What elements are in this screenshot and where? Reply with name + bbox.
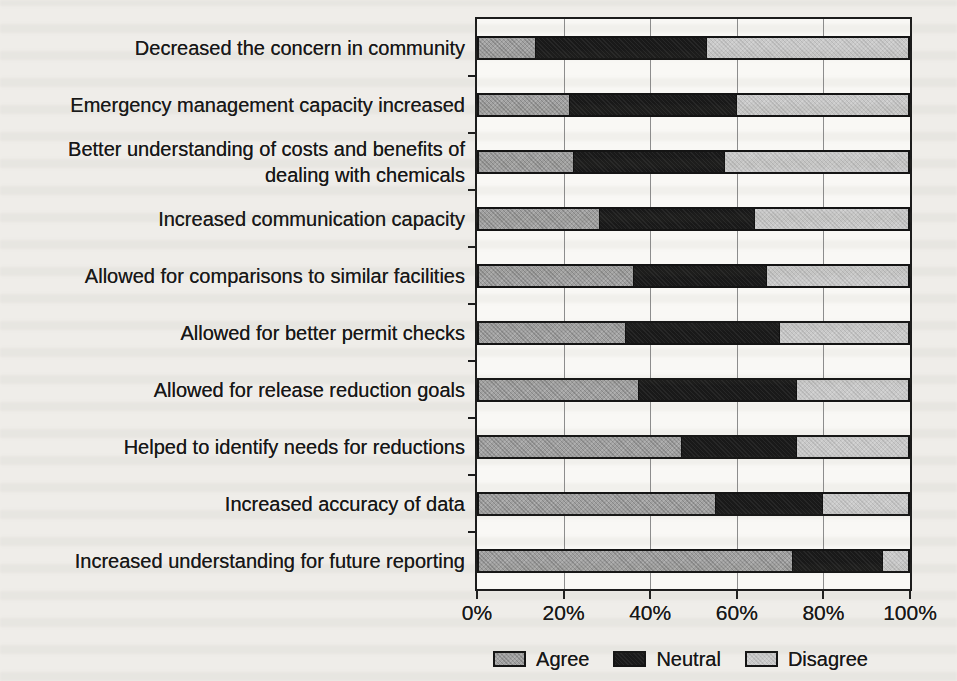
bar-segment-disagree bbox=[796, 380, 908, 400]
agree-swatch bbox=[493, 651, 526, 667]
category-label: Emergency management capacity increased bbox=[0, 92, 465, 118]
legend-label: Neutral bbox=[656, 648, 720, 671]
plot-area bbox=[475, 17, 912, 591]
bar-row bbox=[477, 435, 910, 459]
bar-row bbox=[477, 549, 910, 573]
bar-segment-neutral bbox=[792, 551, 882, 571]
x-axis-label: 40% bbox=[629, 601, 671, 625]
x-axis-tick bbox=[909, 591, 911, 599]
bar-segment-agree bbox=[479, 551, 792, 571]
bar-row bbox=[477, 492, 910, 516]
y-axis-tick bbox=[468, 132, 475, 134]
neutral-swatch bbox=[613, 651, 646, 667]
bar-segment-neutral bbox=[535, 38, 707, 58]
bar-segment-agree bbox=[479, 323, 625, 343]
bar-segment-neutral bbox=[715, 494, 822, 514]
category-label: Allowed for better permit checks bbox=[0, 320, 465, 346]
bar-segment-neutral bbox=[638, 380, 797, 400]
category-label: Allowed for comparisons to similar facil… bbox=[0, 263, 465, 289]
y-axis-tick bbox=[468, 531, 475, 533]
bar-row bbox=[477, 264, 910, 288]
x-axis-tick bbox=[822, 591, 824, 599]
bar-segment-neutral bbox=[625, 323, 779, 343]
stacked-bar-chart: Decreased the concern in communityEmerge… bbox=[0, 0, 957, 681]
y-axis-tick bbox=[468, 417, 475, 419]
bar-segment-disagree bbox=[706, 38, 908, 58]
legend-item-agree: Agree bbox=[493, 648, 589, 671]
x-axis-tick bbox=[736, 591, 738, 599]
bar-segment-disagree bbox=[754, 209, 908, 229]
bar-segment-disagree bbox=[796, 437, 908, 457]
y-axis-tick bbox=[468, 189, 475, 191]
y-axis-tick bbox=[468, 246, 475, 248]
bar-segment-agree bbox=[479, 152, 573, 172]
y-axis-tick bbox=[468, 303, 475, 305]
bar-row bbox=[477, 93, 910, 117]
category-label: Allowed for release reduction goals bbox=[0, 377, 465, 403]
x-axis-tick bbox=[476, 591, 478, 599]
category-label: Helped to identify needs for reductions bbox=[0, 434, 465, 460]
x-axis-tick bbox=[563, 591, 565, 599]
x-axis-label: 100% bbox=[883, 601, 937, 625]
bar-segment-disagree bbox=[724, 152, 908, 172]
legend-label: Disagree bbox=[788, 648, 868, 671]
bar-segment-disagree bbox=[822, 494, 908, 514]
bar-segment-agree bbox=[479, 380, 638, 400]
bar-segment-agree bbox=[479, 209, 599, 229]
y-axis-tick bbox=[468, 75, 475, 77]
bar-segment-disagree bbox=[766, 266, 908, 286]
bar-segment-agree bbox=[479, 494, 715, 514]
bar-segment-neutral bbox=[569, 95, 736, 115]
bar-segment-neutral bbox=[573, 152, 723, 172]
bar-row bbox=[477, 207, 910, 231]
x-axis-ticks bbox=[477, 591, 910, 600]
legend-item-disagree: Disagree bbox=[745, 648, 868, 671]
category-label: Increased understanding for future repor… bbox=[0, 548, 465, 574]
bar-segment-disagree bbox=[882, 551, 908, 571]
category-label: Increased accuracy of data bbox=[0, 491, 465, 517]
bar-segment-agree bbox=[479, 38, 535, 58]
category-label: Increased communication capacity bbox=[0, 206, 465, 232]
x-axis-labels: 0%20%40%60%80%100% bbox=[477, 601, 910, 627]
bar-segment-neutral bbox=[633, 266, 766, 286]
legend-label: Agree bbox=[536, 648, 589, 671]
x-axis-label: 20% bbox=[543, 601, 585, 625]
bar-segment-agree bbox=[479, 95, 569, 115]
bar-segment-agree bbox=[479, 437, 681, 457]
bar-segment-agree bbox=[479, 266, 633, 286]
y-axis-tick bbox=[468, 474, 475, 476]
disagree-swatch bbox=[745, 651, 778, 667]
bar-row bbox=[477, 150, 910, 174]
legend-item-neutral: Neutral bbox=[613, 648, 720, 671]
bar-segment-disagree bbox=[779, 323, 908, 343]
x-axis-tick bbox=[649, 591, 651, 599]
bar-row bbox=[477, 321, 910, 345]
scanned-page: Decreased the concern in communityEmerge… bbox=[0, 0, 957, 681]
category-label: Better understanding of costs and benefi… bbox=[0, 136, 465, 188]
x-axis-label: 80% bbox=[802, 601, 844, 625]
bar-segment-neutral bbox=[681, 437, 797, 457]
category-label: Decreased the concern in community bbox=[0, 35, 465, 61]
x-axis-label: 60% bbox=[716, 601, 758, 625]
bar-row bbox=[477, 378, 910, 402]
bar-row bbox=[477, 36, 910, 60]
y-axis-tick bbox=[468, 360, 475, 362]
x-axis-label: 0% bbox=[462, 601, 492, 625]
legend: AgreeNeutralDisagree bbox=[462, 644, 899, 674]
bar-segment-neutral bbox=[599, 209, 753, 229]
bar-segment-disagree bbox=[736, 95, 908, 115]
